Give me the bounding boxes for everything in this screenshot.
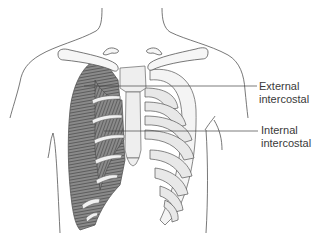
thorax-diagram: External intercostal Internal intercosta… — [0, 0, 316, 233]
label-line-2: intercostal — [261, 137, 311, 150]
external-intercostal-label: External intercostal — [259, 80, 309, 106]
thorax-illustration — [0, 0, 316, 233]
label-line-2: intercostal — [259, 93, 309, 106]
right-ribcage — [145, 69, 196, 225]
label-line-1: External — [259, 80, 309, 93]
internal-intercostal-label: Internal intercostal — [261, 124, 311, 150]
label-line-1: Internal — [261, 124, 311, 137]
left-ribcage-muscles — [68, 62, 125, 230]
